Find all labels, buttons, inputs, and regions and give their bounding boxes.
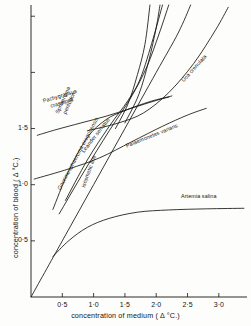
data-curves: [31, 5, 244, 297]
x-tick-label: 1·0: [86, 301, 102, 308]
axis-lines: [31, 5, 247, 297]
curve-sphaeroma-pentodon: [53, 96, 172, 209]
curve-artemia-salina: [53, 208, 244, 256]
curve-gnorimosphaeroma-oregonensis: [59, 5, 169, 214]
x-axis-title: concentration of medium ( Δ °C.): [0, 311, 251, 320]
y-axis-ticks: [31, 16, 35, 241]
osmoregulation-chart-figure: 0·51·01·52·02·53·0 0·51·01·5 isosmotic l…: [0, 0, 251, 326]
x-tick-label: 2·0: [148, 301, 164, 308]
x-tick-label: 1·5: [117, 301, 133, 308]
curve-isosmotic-line: [31, 5, 191, 297]
x-tick-label: 0·5: [54, 301, 70, 308]
y-tick-label: 1·5: [14, 124, 28, 131]
x-axis-ticks: [62, 293, 219, 297]
curve-label-artemia-salina: Artemia salina: [181, 193, 217, 199]
x-tick-label: 2·5: [180, 301, 196, 308]
y-axis-title: concentration of blood ( Δ °C.): [11, 157, 20, 258]
y-axis-title-wrap: concentration of blood ( Δ °C.): [0, 0, 14, 300]
x-tick-label: 3·0: [211, 301, 227, 308]
chart-plot-area: [0, 0, 251, 326]
